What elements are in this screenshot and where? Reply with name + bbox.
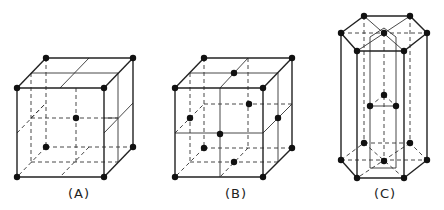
panel-b-label: (B) — [225, 186, 247, 201]
panel-c-label: (C) — [374, 186, 396, 201]
panel-a-label: (A) — [68, 186, 90, 201]
panel-a-bcc-cube — [14, 55, 136, 180]
panel-c-hcp-prism — [338, 13, 430, 181]
panel-b-fcc-cube — [172, 55, 295, 180]
crystal-structures-diagram — [0, 0, 444, 210]
